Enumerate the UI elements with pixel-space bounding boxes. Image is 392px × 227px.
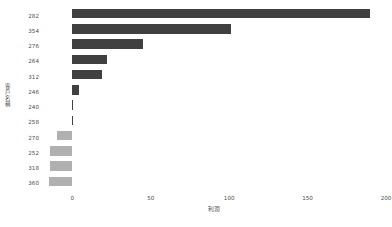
x-axis-title: 利潤 (41, 207, 386, 213)
x-tick-100: 100 (224, 196, 235, 202)
x-axis: 050100150200 利潤 (41, 189, 386, 227)
plot-area: 282354276264312246240258270252318360 (41, 6, 386, 189)
bar-row: 312 (41, 70, 386, 79)
bar-row: 246 (41, 85, 386, 94)
y-tick-240: 240 (28, 105, 39, 111)
bar-row: 240 (41, 100, 386, 109)
bar-row: 264 (41, 55, 386, 64)
bar-264[interactable] (72, 55, 107, 64)
bar-row: 360 (41, 177, 386, 186)
y-tick-360: 360 (28, 181, 39, 187)
bar-row: 258 (41, 116, 386, 125)
bar-row: 318 (41, 161, 386, 170)
y-tick-264: 264 (28, 59, 39, 65)
bar-240[interactable] (72, 100, 73, 109)
y-tick-276: 276 (28, 44, 39, 50)
x-tick-150: 150 (302, 196, 313, 202)
y-tick-252: 252 (28, 151, 39, 157)
bar-354[interactable] (72, 24, 230, 33)
bar-row: 252 (41, 146, 386, 155)
bar-318[interactable] (50, 161, 73, 170)
bar-row: 282 (41, 9, 386, 18)
x-tick-50: 50 (147, 196, 154, 202)
bar-246[interactable] (72, 85, 78, 94)
y-axis-title: 客戶名稱 (0, 0, 14, 190)
y-tick-258: 258 (28, 120, 39, 126)
y-tick-270: 270 (28, 136, 39, 142)
y-tick-318: 318 (28, 166, 39, 172)
bar-row: 270 (41, 131, 386, 140)
y-tick-354: 354 (28, 29, 39, 35)
bar-row: 354 (41, 24, 386, 33)
bar-282[interactable] (72, 9, 370, 18)
bar-312[interactable] (72, 70, 102, 79)
y-axis-title-label: 客戶名稱 (4, 83, 10, 107)
bar-rows: 282354276264312246240258270252318360 (41, 6, 386, 189)
bar-252[interactable] (50, 146, 72, 155)
bar-row: 276 (41, 39, 386, 48)
x-tick-0: 0 (71, 196, 75, 202)
bar-chart: 客戶名稱 28235427626431224624025827025231836… (0, 0, 392, 227)
y-tick-312: 312 (28, 75, 39, 81)
bar-276[interactable] (72, 39, 143, 48)
bar-258[interactable] (72, 116, 73, 125)
bar-270[interactable] (57, 131, 73, 140)
x-tick-200: 200 (381, 196, 392, 202)
y-tick-282: 282 (28, 14, 39, 20)
bar-360[interactable] (49, 177, 73, 186)
y-tick-246: 246 (28, 90, 39, 96)
